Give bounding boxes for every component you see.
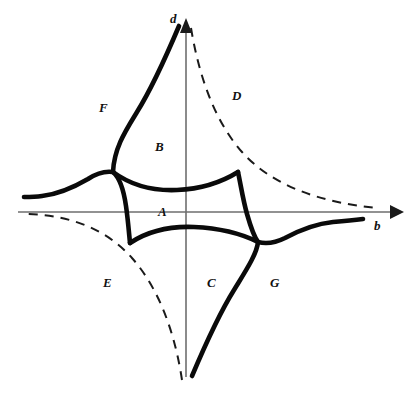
lower-left-dashed-hyperbola — [22, 214, 182, 380]
horizontal-axis-arrowhead — [390, 205, 404, 219]
region-label-a: A — [158, 205, 167, 218]
inner-right-solid-edge — [238, 172, 258, 242]
solid-curves-group — [24, 26, 363, 376]
region-label-f: F — [99, 101, 108, 114]
right-wing-solid-branch — [258, 219, 363, 243]
upper-left-solid-branch — [113, 26, 179, 172]
inner-top-solid-edge — [113, 172, 238, 190]
left-wing-solid-branch — [24, 172, 113, 197]
region-label-g: G — [270, 276, 279, 289]
region-label-c: C — [207, 276, 216, 289]
lower-right-solid-branch — [192, 242, 258, 376]
region-label-e: E — [103, 276, 112, 289]
diagram-canvas — [0, 0, 415, 401]
vertical-axis-label: d — [170, 12, 177, 25]
horizontal-axis-label: b — [374, 219, 381, 232]
axis-group — [18, 18, 404, 377]
vertical-axis-arrowhead — [180, 18, 192, 33]
dashed-curves-group — [22, 28, 378, 380]
phase-diagram-figure: d b A B C D E F G — [0, 0, 415, 401]
inner-bottom-solid-edge — [130, 227, 258, 243]
region-label-b: B — [155, 140, 164, 153]
region-label-d: D — [232, 89, 241, 102]
